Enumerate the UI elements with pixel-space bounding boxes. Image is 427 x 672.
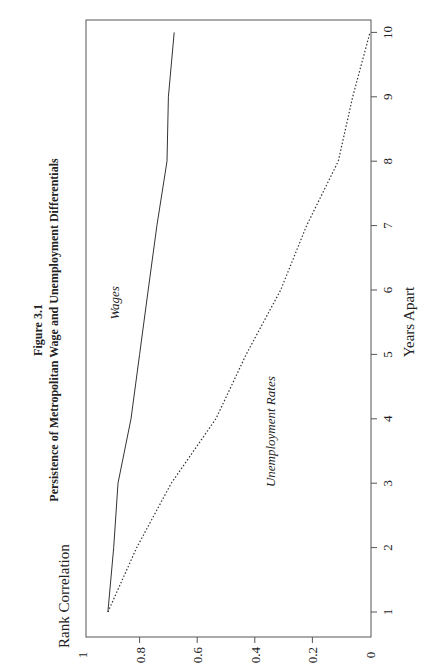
y-tick-label: 0.2 — [305, 647, 320, 663]
x-tick-label: 4 — [380, 415, 395, 422]
y-tick-label: 0.6 — [190, 646, 205, 663]
x-tick-label: 10 — [380, 26, 395, 39]
wages-label: Wages — [107, 286, 122, 319]
x-tick-label: 7 — [380, 222, 395, 229]
x-tick-label: 2 — [380, 544, 395, 551]
series-group — [108, 32, 370, 612]
rotated-line-chart: 1234567891000.20.40.60.81 WagesUnemploym… — [0, 0, 427, 672]
unemployment-rates-line — [108, 32, 370, 612]
figure-number: Figure 3.1 — [31, 304, 45, 356]
labels-group: WagesUnemployment Rates — [107, 286, 278, 487]
figure-title: Persistence of Metropolitan Wage and Une… — [47, 158, 61, 502]
y-tick-label: 0 — [363, 652, 378, 659]
x-tick-label: 6 — [380, 286, 395, 293]
x-tick-label: 9 — [380, 94, 395, 101]
y-axis-title: Rank Correlation — [56, 544, 72, 648]
plot-frame — [86, 20, 371, 637]
y-tick-label: 1 — [75, 652, 90, 659]
x-tick-label: 5 — [380, 351, 395, 358]
unemployment-rates-label: Unemployment Rates — [263, 376, 278, 487]
axes: 1234567891000.20.40.60.81 — [75, 26, 395, 663]
wages-line — [108, 32, 174, 612]
x-axis-title: Years Apart — [401, 286, 417, 357]
y-tick-label: 0.8 — [133, 647, 148, 663]
x-tick-label: 8 — [380, 158, 395, 165]
x-tick-label: 1 — [380, 609, 395, 616]
y-tick-label: 0.4 — [248, 646, 263, 663]
x-tick-label: 3 — [380, 480, 395, 487]
